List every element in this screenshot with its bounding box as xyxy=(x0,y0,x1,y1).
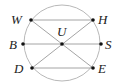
label-u: U xyxy=(57,24,68,39)
point-b-dot xyxy=(21,42,25,46)
point-s-dot xyxy=(99,42,103,46)
point-d-dot xyxy=(30,66,34,70)
label-e: E xyxy=(97,61,106,76)
point-w-dot xyxy=(29,18,33,22)
point-e-dot xyxy=(91,66,95,70)
point-h-dot xyxy=(91,18,95,22)
label-d: D xyxy=(13,61,24,76)
label-h: H xyxy=(97,12,108,27)
point-u-dot xyxy=(60,42,64,46)
circle-diagram: W H B S U D E xyxy=(0,0,114,84)
label-b: B xyxy=(9,37,17,52)
label-w: W xyxy=(11,12,23,27)
label-s: S xyxy=(105,37,112,52)
